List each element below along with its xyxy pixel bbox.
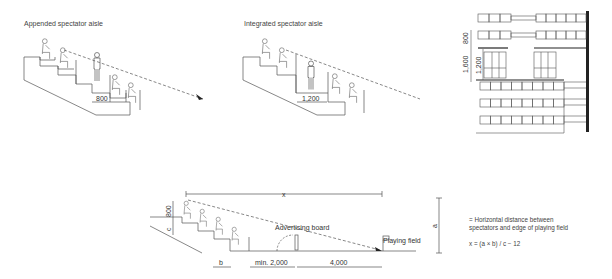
b-dimension-label: b [219,259,223,266]
advertising-board [295,235,298,250]
advertising-board-label: Advertising board [275,224,330,232]
x-formula: x = (a × b) / c − 12 [469,240,520,248]
playing-field-label: Playing field [383,237,421,245]
plan-row-dimension: 800 [462,32,469,44]
x-definition-line2: spectators and edge of playing field [469,224,568,232]
field-distance-dimension: 4,000 [330,259,348,266]
x-definition: = Horizontal distance between spectators… [469,216,568,232]
plan-view [471,11,589,133]
min-distance-dimension: min. 2,000 [255,259,288,266]
plan-total-dimension: 1,600 [462,55,469,73]
plan-aisle-dimension: 1,200 [475,56,482,74]
a-dimension-label: a [431,224,438,228]
eye-height-dimension: 800 [165,205,172,217]
wall [586,11,589,132]
c-dimension-label: c [165,227,172,231]
integrated-aisle-dimension: 1,200 [302,95,320,102]
x-definition-line1: = Horizontal distance between [469,216,568,224]
appended-aisle-dimension: 800 [96,95,108,102]
appended-aisle-section [24,39,203,115]
integrated-aisle-section [243,39,420,115]
x-dimension-label: x [282,191,286,198]
diagram-canvas: 800 1,200 [0,0,612,279]
